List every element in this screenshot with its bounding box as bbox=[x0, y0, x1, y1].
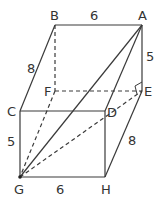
label-D: D bbox=[107, 105, 117, 120]
prism-diagram: B A F E C D G H 6 5 8 5 6 8 bbox=[0, 0, 161, 202]
label-H: H bbox=[101, 182, 111, 197]
edge-DA bbox=[105, 25, 142, 111]
dim-AE: 5 bbox=[146, 49, 154, 64]
dim-GH: 6 bbox=[56, 182, 64, 197]
dim-BC: 8 bbox=[27, 61, 35, 76]
label-A: A bbox=[138, 8, 147, 23]
label-F: F bbox=[44, 84, 51, 99]
diagonal-GA bbox=[20, 25, 142, 177]
dim-CG: 5 bbox=[7, 134, 15, 149]
label-B: B bbox=[50, 8, 59, 23]
label-E: E bbox=[144, 84, 152, 99]
label-C: C bbox=[7, 104, 16, 119]
label-G: G bbox=[14, 182, 24, 197]
vertex-dot-G bbox=[18, 175, 22, 179]
dim-BA: 6 bbox=[90, 8, 98, 23]
dim-HE: 8 bbox=[128, 133, 136, 148]
